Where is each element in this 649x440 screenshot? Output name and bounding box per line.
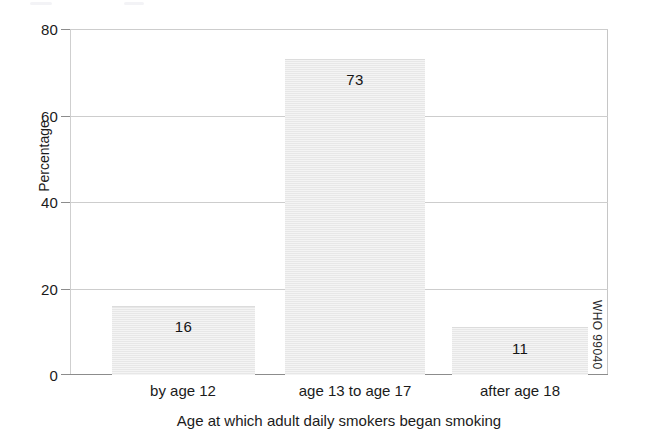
gridline-80 [70,29,608,30]
scan-artifact [30,2,52,5]
bar-value-label: 11 [452,340,588,357]
x-tick-label-by-age-12: by age 12 [150,382,216,399]
x-tick-label-age-13-to-17: age 13 to age 17 [299,382,412,399]
bar-by-age-12: 16 [112,306,255,375]
y-tick-mark-0 [61,374,70,375]
y-tick-label-0: 0 [49,367,58,384]
bar-value-label: 73 [285,71,425,88]
y-tick-label-20: 20 [41,280,58,297]
bar-age-13-to-17: 73 [285,59,425,375]
y-tick-mark-40 [61,202,70,203]
x-axis-title: Age at which adult daily smokers began s… [70,412,608,429]
bar-after-age-18: 11 [452,327,588,375]
y-tick-mark-80 [61,29,70,30]
x-axis-tick-labels: by age 12 age 13 to age 17 after age 18 [70,382,608,404]
plot-area: 16 73 11 [70,29,608,375]
bar-chart-figure: 80 60 40 20 0 Percentage 16 73 11 [0,0,649,440]
x-tick-label-after-age-18: after age 18 [480,382,560,399]
y-tick-label-80: 80 [41,21,58,38]
scan-artifact [124,2,144,5]
y-axis-title: Percentage [36,96,52,216]
bar-value-label: 16 [112,318,255,335]
y-tick-mark-60 [61,116,70,117]
who-credit-label: WHO 99040 [590,300,604,370]
y-tick-mark-20 [61,289,70,290]
